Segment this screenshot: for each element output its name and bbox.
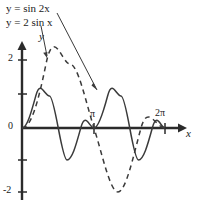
y-axis bbox=[18, 41, 27, 200]
y-tick-label-negative-2: -2 bbox=[3, 185, 11, 195]
y-axis-name: y bbox=[39, 31, 44, 42]
x-axis-name: x bbox=[186, 128, 191, 139]
annotation-arrow-sin-2x bbox=[57, 13, 97, 90]
y-tick-label-2: 2 bbox=[8, 53, 13, 63]
figure-container: y = sin 2x y = 2 sin x y x 2 0 -2 π 2π bbox=[0, 0, 198, 216]
x-tick-label-pi: π bbox=[90, 109, 95, 119]
y-tick-label-0: 0 bbox=[8, 121, 13, 131]
curve-2-sin-x bbox=[22, 47, 165, 192]
x-tick-label-two-pi: 2π bbox=[155, 108, 165, 118]
sine-curves-plot bbox=[0, 0, 198, 216]
equation-label-2-sin-x: y = 2 sin x bbox=[6, 17, 53, 28]
equation-label-sin-2x: y = sin 2x bbox=[6, 3, 50, 14]
